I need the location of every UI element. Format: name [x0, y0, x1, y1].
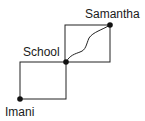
upper-route-rectangle — [65, 25, 110, 62]
school-label: School — [23, 45, 60, 59]
samantha-label: Samantha — [85, 7, 140, 21]
winding-path — [66, 25, 110, 62]
samantha-dot-icon — [107, 22, 113, 28]
imani-label: Imani — [5, 105, 34, 119]
route-diagram: Samantha School Imani — [0, 0, 145, 121]
imani-dot-icon — [17, 96, 23, 102]
lower-route-rectangle — [20, 62, 66, 99]
school-dot-icon — [63, 59, 69, 65]
